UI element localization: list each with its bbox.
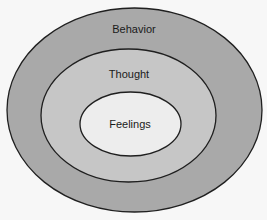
feelings-label: Feelings — [109, 118, 151, 130]
nested-ellipse-diagram: Behavior Thought Feelings — [0, 0, 267, 220]
diagram-svg: Behavior Thought Feelings — [0, 0, 267, 220]
thought-label: Thought — [109, 68, 149, 80]
behavior-label: Behavior — [112, 23, 156, 35]
